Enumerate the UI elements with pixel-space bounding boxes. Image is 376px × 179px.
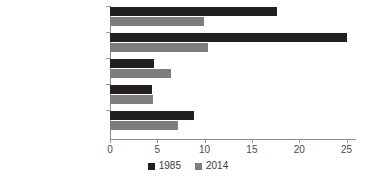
x-axis-tick [347,139,348,143]
bar-group: 'Old' OECD countries [110,6,356,32]
legend-label: 2014 [206,161,228,171]
x-axis-tick-label: 25 [332,144,362,155]
bar-2014 [110,95,153,104]
bar-2014 [110,69,171,78]
bar-1985 [110,7,277,16]
bar-2014 [110,43,208,52]
legend-label: 1985 [159,161,181,171]
bar-group: Developing countries [110,58,356,84]
bar-group: World total [110,110,356,136]
bar-chart: 'Old' OECD countriesFormer Soviet sphere… [0,0,376,179]
bar-2014 [110,121,178,130]
bar-2014 [110,17,204,26]
bar-group: Developing w/o China [110,84,356,110]
x-axis-tick [299,139,300,143]
bar-1985 [110,33,347,42]
chart-title [110,0,360,2]
x-axis-tick-label: 0 [95,144,125,155]
x-axis-tick [205,139,206,143]
x-axis-tick [110,139,111,143]
bar-group: Former Soviet sphere [110,32,356,58]
bar-1985 [110,111,194,120]
x-axis-tick-label: 15 [237,144,267,155]
legend-item-2014[interactable]: 2014 [195,161,228,171]
bar-1985 [110,85,152,94]
x-axis-tick [157,139,158,143]
legend-item-1985[interactable]: 1985 [148,161,181,171]
x-axis-tick-label: 20 [284,144,314,155]
x-axis-line [110,139,356,140]
x-axis-tick-label: 5 [142,144,172,155]
chart-legend: 19852014 [0,161,376,171]
legend-swatch-icon [195,163,202,170]
x-axis-tick [252,139,253,143]
plot-area: 'Old' OECD countriesFormer Soviet sphere… [110,6,356,139]
bar-1985 [110,59,154,68]
legend-swatch-icon [148,163,155,170]
x-axis-tick-label: 10 [190,144,220,155]
